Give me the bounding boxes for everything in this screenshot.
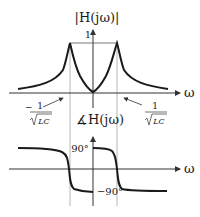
magnitude-title: |H(jω)| — [75, 10, 120, 25]
magnitude-x-label: ω — [184, 85, 195, 100]
phase-x-label: ω — [184, 161, 195, 176]
phase-curve-left — [18, 148, 93, 192]
right-marker-numerator: 1 — [152, 101, 158, 111]
phase-title: ∡H(jω) — [76, 112, 124, 127]
magnitude-y-tick: 1 — [85, 29, 91, 40]
left-marker-denominator: LC — [37, 117, 49, 126]
frequency-response-diagram: |H(jω)| 1 ω − 1 LC 1 LC ∡H(jω) 90° −90° … — [0, 0, 200, 217]
magnitude-plot: |H(jω)| 1 ω − 1 LC 1 LC — [9, 10, 195, 126]
left-marker-arrow — [43, 98, 63, 107]
left-marker-numerator: 1 — [37, 101, 43, 111]
phase-lower-tick: −90° — [97, 186, 123, 197]
right-marker-arrow — [124, 98, 142, 105]
phase-plot: ∡H(jω) 90° −90° ω — [9, 112, 195, 206]
left-marker-sign: − — [25, 102, 33, 112]
phase-upper-tick: 90° — [71, 143, 89, 154]
right-marker-denominator: LC — [152, 117, 164, 126]
